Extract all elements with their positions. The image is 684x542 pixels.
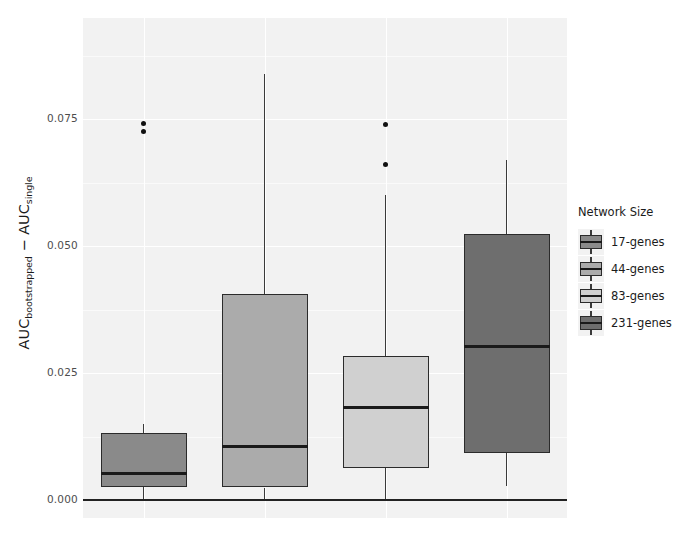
legend-key-whisker-bottom — [590, 276, 591, 281]
y-tick-label-0.025: 0.025 — [32, 366, 78, 378]
y-axis-title-term1-main: AUC — [16, 319, 32, 350]
legend-item-label: 44-genes — [611, 262, 665, 276]
box-rect-231-genes[interactable] — [464, 234, 550, 453]
y-axis-title-operator: − — [16, 235, 32, 256]
plot-panel — [83, 18, 567, 518]
y-axis-title: AUCbootstrapped − AUCsingle — [16, 123, 32, 403]
boxplot-231-genes[interactable] — [83, 18, 567, 518]
y-tick-label-0.000: 0.000 — [32, 493, 78, 505]
legend-item-231-genes[interactable]: 231-genes — [578, 309, 682, 336]
legend-item-17-genes[interactable]: 17-genes — [578, 228, 682, 255]
legend-title: Network Size — [578, 205, 682, 219]
legend-item-44-genes[interactable]: 44-genes — [578, 255, 682, 282]
y-tick-label-0.050: 0.050 — [32, 239, 78, 251]
legend-key-swatch-17-genes — [578, 229, 604, 255]
whisker-lower-231-genes — [506, 453, 508, 486]
y-axis-title-term2-sub: single — [23, 177, 34, 205]
y-axis-title-term1-sub: bootstrapped — [23, 256, 34, 319]
legend: Network Size 17-genes44-genes83-genes231… — [578, 205, 682, 336]
legend-key-median — [580, 295, 602, 297]
legend-key-swatch-83-genes — [578, 283, 604, 309]
legend-item-label: 17-genes — [611, 235, 665, 249]
legend-item-label: 231-genes — [611, 316, 672, 330]
legend-item-83-genes[interactable]: 83-genes — [578, 282, 682, 309]
whisker-upper-231-genes — [506, 160, 508, 234]
median-line-231-genes — [464, 345, 550, 348]
legend-key-median — [580, 322, 602, 324]
zero-reference-line — [83, 499, 567, 501]
legend-key-swatch-44-genes — [578, 256, 604, 282]
boxplot-figure: 0.0000.0250.0500.075 AUCbootstrapped − A… — [0, 0, 684, 542]
y-axis-title-term2-main: AUC — [16, 204, 32, 235]
legend-key-swatch-231-genes — [578, 310, 604, 336]
legend-items: 17-genes44-genes83-genes231-genes — [578, 228, 682, 336]
legend-key-whisker-bottom — [590, 330, 591, 335]
legend-key-median — [580, 268, 602, 270]
y-tick-label-0.075: 0.075 — [32, 112, 78, 124]
legend-key-whisker-bottom — [590, 303, 591, 308]
legend-item-label: 83-genes — [611, 289, 665, 303]
legend-key-median — [580, 241, 602, 243]
legend-key-whisker-bottom — [590, 249, 591, 254]
